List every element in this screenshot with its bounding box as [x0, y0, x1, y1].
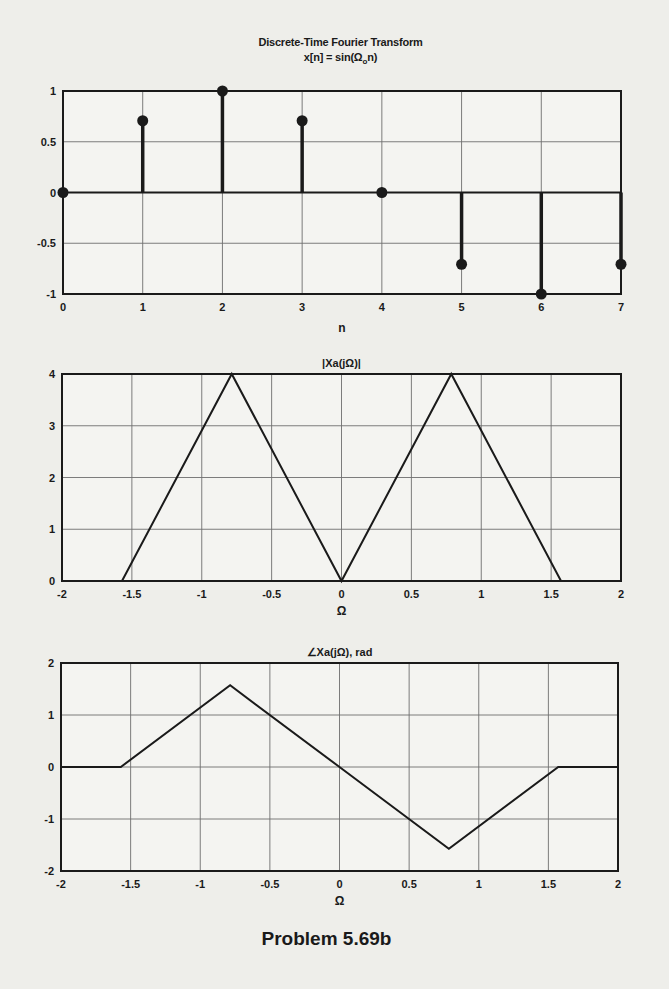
- x-tick-label: 0: [338, 588, 344, 600]
- problem-label: Problem 5.69b: [0, 928, 661, 950]
- y-tick-label: 1: [48, 709, 54, 721]
- stem-marker: [297, 115, 308, 126]
- x-tick-label: -0.5: [260, 878, 279, 890]
- x-tick-label: 2: [618, 588, 624, 600]
- y-tick-label: -2: [44, 865, 54, 877]
- chart-canvas: 01234567-1-0.500.51n -2-1.5-1-0.500.511.…: [0, 0, 669, 989]
- y-tick-label: 2: [49, 472, 55, 484]
- x-axis-label: Ω: [335, 894, 345, 908]
- y-tick-label: 4: [49, 368, 56, 380]
- time-domain-stem-plot: 01234567-1-0.500.51n: [37, 85, 626, 335]
- stem-marker: [376, 187, 387, 198]
- x-tick-label: 2: [615, 878, 621, 890]
- x-tick-label: -2: [56, 878, 66, 890]
- x-tick-label: -0.5: [262, 588, 281, 600]
- x-tick-label: 0.5: [401, 878, 416, 890]
- x-tick-label: 1.5: [541, 878, 556, 890]
- y-tick-label: 0.5: [41, 136, 56, 148]
- x-tick-label: -1.5: [122, 588, 141, 600]
- y-tick-label: 2: [48, 657, 54, 669]
- phase-spectrum-plot: -2-1.5-1-0.500.511.52-2-1012Ω∠Xa(jΩ), ra…: [44, 646, 621, 908]
- y-tick-label: 3: [49, 420, 55, 432]
- x-tick-label: 1: [478, 588, 484, 600]
- y-tick-label: -1: [44, 813, 54, 825]
- x-tick-label: 1: [140, 301, 146, 313]
- x-tick-label: -1: [195, 878, 205, 890]
- y-tick-label: 0: [49, 575, 55, 587]
- x-tick-label: 1: [476, 878, 482, 890]
- x-tick-label: 1.5: [543, 588, 558, 600]
- magnitude-spectrum-plot: -2-1.5-1-0.500.511.5201234Ω|Xa(jΩ)|: [49, 357, 624, 618]
- x-tick-label: 7: [618, 301, 624, 313]
- axes-title: ∠Xa(jΩ), rad: [307, 646, 373, 658]
- x-axis-label: n: [338, 321, 345, 335]
- axes-title: |Xa(jΩ)|: [322, 357, 361, 369]
- x-tick-label: 0: [60, 301, 66, 313]
- y-tick-label: 1: [49, 523, 55, 535]
- x-tick-label: -2: [57, 588, 67, 600]
- y-tick-label: -0.5: [37, 237, 56, 249]
- y-tick-label: -1: [46, 288, 56, 300]
- x-tick-label: 5: [459, 301, 465, 313]
- x-axis-label: Ω: [337, 604, 347, 618]
- x-tick-label: 2: [219, 301, 225, 313]
- x-tick-label: 0: [336, 878, 342, 890]
- stem-marker: [137, 115, 148, 126]
- y-tick-label: 0: [50, 187, 56, 199]
- x-tick-label: -1.5: [121, 878, 140, 890]
- x-tick-label: 6: [538, 301, 544, 313]
- x-tick-label: 4: [379, 301, 386, 313]
- x-tick-label: 3: [299, 301, 305, 313]
- x-tick-label: 0.5: [404, 588, 419, 600]
- y-tick-label: 1: [50, 85, 56, 97]
- y-tick-label: 0: [48, 761, 54, 773]
- stem-marker: [456, 259, 467, 270]
- x-tick-label: -1: [197, 588, 207, 600]
